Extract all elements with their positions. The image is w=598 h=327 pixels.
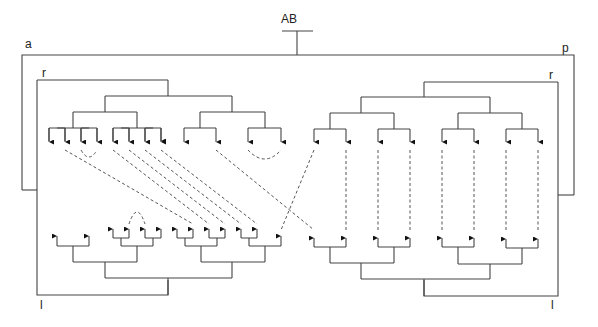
top-left-tree	[49, 80, 281, 142]
bottom-left-tree	[57, 229, 281, 295]
bottom-right-tree	[314, 238, 538, 296]
root-label: AB	[281, 12, 297, 26]
top-right-tree	[314, 82, 538, 142]
inner-top-left-label: r	[42, 66, 46, 80]
outer-right-label: p	[562, 41, 569, 55]
dashed-links	[65, 150, 538, 232]
genealogy-tree-diagram: AB a p r r l l	[0, 0, 598, 327]
inner-bottom-right-label: l	[551, 298, 554, 312]
outer-left-label: a	[25, 37, 32, 51]
inner-bottom-left-label: l	[40, 298, 43, 312]
inner-top-right-label: r	[549, 68, 553, 82]
